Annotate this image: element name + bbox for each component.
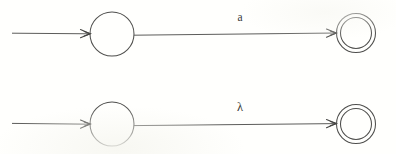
accept-state-inner-circle — [341, 109, 372, 140]
automata-figure: a λ — [0, 0, 396, 154]
start-state-circle[interactable] — [90, 12, 134, 56]
transition-label-lambda: λ — [237, 100, 243, 114]
start-state-circle[interactable] — [90, 102, 134, 146]
transition-label-a: a — [237, 11, 242, 23]
automaton-top: a — [12, 11, 376, 56]
transition-a-line — [134, 33, 336, 35]
automata-canvas: a λ — [0, 0, 396, 154]
automaton-bottom: λ — [12, 100, 376, 146]
transition-lambda-line — [134, 124, 336, 126]
start-arrow-line — [12, 33, 90, 34]
accept-state-outer-circle[interactable] — [337, 14, 376, 53]
start-arrow-line — [12, 123, 90, 124]
accept-state-outer-circle[interactable] — [337, 105, 376, 144]
accept-state-inner-circle — [341, 18, 372, 49]
